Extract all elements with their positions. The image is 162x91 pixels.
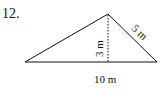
- base-label: 10 m: [94, 73, 117, 85]
- triangle-diagram: 3 m 5 m 10 m: [0, 0, 162, 91]
- side-label: 5 m: [130, 22, 151, 43]
- height-label: 3 m: [93, 40, 105, 57]
